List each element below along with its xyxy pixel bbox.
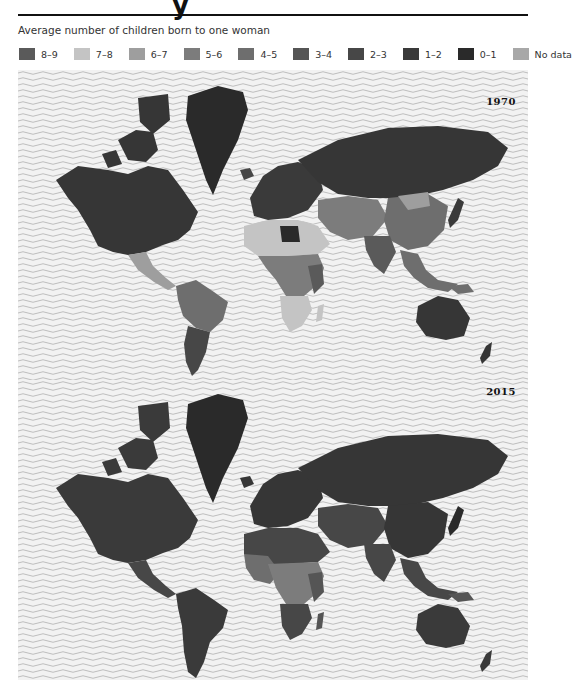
map-2015: 2015 (18, 380, 528, 680)
year-label-2015: 2015 (486, 386, 516, 397)
legend-swatch (184, 48, 200, 60)
legend-label: 7–8 (96, 49, 113, 60)
legend-label: 8–9 (41, 49, 58, 60)
legend-item-5-6: 5–6 (184, 47, 223, 61)
legend-swatch (129, 48, 145, 60)
legend-swatch (513, 48, 529, 60)
world-map-1970 (18, 70, 528, 380)
legend-label: 1–2 (425, 49, 442, 60)
legend-swatch (348, 48, 364, 60)
libya (280, 226, 300, 242)
legend-label: 0–1 (480, 49, 497, 60)
legend-item-8-9: 8–9 (19, 47, 58, 61)
legend-item-0-1: 0–1 (458, 47, 497, 61)
legend-label: 3–4 (315, 49, 332, 60)
legend-item-6-7: 6–7 (129, 47, 168, 61)
legend-swatch (19, 48, 35, 60)
legend-label: 4–5 (260, 49, 277, 60)
legend-title: Average number of children born to one w… (18, 24, 270, 36)
legend-item-no-data: No data (513, 47, 572, 61)
legend-item-7-8: 7–8 (74, 47, 113, 61)
title-fragment: y (172, 0, 189, 20)
legend-item-2-3: 2–3 (348, 47, 387, 61)
legend-label: No data (535, 49, 572, 60)
map-1970: 1970 (18, 70, 528, 380)
year-label-1970: 1970 (486, 96, 516, 107)
legend-swatch (74, 48, 90, 60)
legend-label: 2–3 (370, 49, 387, 60)
legend-swatch (403, 48, 419, 60)
legend-item-3-4: 3–4 (293, 47, 332, 61)
legend-swatch (293, 48, 309, 60)
legend-item-1-2: 1–2 (403, 47, 442, 61)
header-rule (18, 14, 528, 16)
world-map-2015 (18, 380, 528, 680)
legend-swatch (238, 48, 254, 60)
legend-swatch (458, 48, 474, 60)
legend-label: 6–7 (151, 49, 168, 60)
legend: 8–9 7–8 6–7 5–6 4–5 3–4 2–3 1–2 0–1 No d… (19, 47, 529, 61)
legend-label: 5–6 (206, 49, 223, 60)
legend-item-4-5: 4–5 (238, 47, 277, 61)
